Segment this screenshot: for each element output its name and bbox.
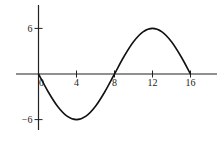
x-tick-label: 4 bbox=[74, 77, 79, 88]
y-tick-label: 6 bbox=[28, 23, 33, 34]
chart: 0481216 6−6 bbox=[0, 0, 224, 141]
x-ticks: 0481216 bbox=[39, 71, 196, 89]
x-tick-label: 16 bbox=[186, 77, 196, 88]
y-tick-label: −6 bbox=[22, 114, 33, 125]
x-tick-label: 12 bbox=[148, 77, 158, 88]
